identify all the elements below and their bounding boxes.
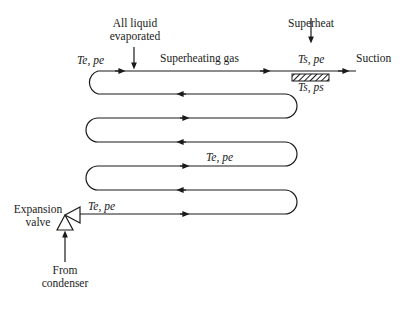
superheat-hatch (292, 74, 329, 81)
state-superheat-top: Ts, pe (298, 53, 324, 66)
from-line1: From (33, 264, 97, 277)
state-superheat-bottom: Ts, ps (298, 81, 324, 94)
all-liquid-label: All liquid evaporated (104, 17, 166, 43)
state-top-left: Te, pe (77, 54, 104, 67)
suction-label: Suction (356, 52, 391, 65)
expansion-line2: valve (8, 216, 68, 229)
superheating-gas-label: Superheating gas (160, 52, 239, 65)
state-middle: Te, pe (206, 151, 233, 164)
superheat-label: Superheat (280, 17, 342, 30)
from-line2: condenser (33, 277, 97, 290)
expansion-valve-label: Expansion valve (8, 203, 68, 229)
from-condenser-label: From condenser (33, 264, 97, 290)
all-liquid-line2: evaporated (104, 30, 166, 43)
expansion-line1: Expansion (8, 203, 68, 216)
all-liquid-line1: All liquid (104, 17, 166, 30)
state-inlet: Te, pe (88, 200, 115, 213)
